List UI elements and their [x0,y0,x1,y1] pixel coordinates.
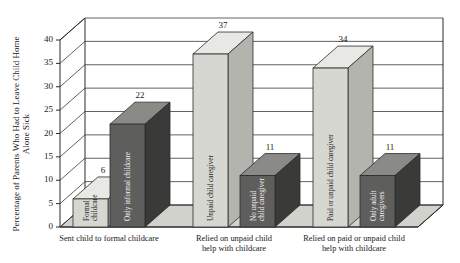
svg-text:caregivers: caregivers [378,191,386,221]
svg-text:Paid or unpaid child caregiver: Paid or unpaid child caregiver [327,134,335,221]
bar-value-label: 11 [266,142,275,152]
y-axis-ticks: 0510152025303540 [44,34,60,231]
svg-text:Alone Sick: Alone Sick [21,113,31,154]
x-category-label: Sent child to formal childcare [59,234,159,243]
svg-text:Unpaid child caregiver: Unpaid child caregiver [207,155,215,221]
bar-inner-label: Paid or unpaid child caregiver [327,134,335,221]
y-tick-label: 0 [49,221,54,231]
x-axis-category-labels: Sent child to formal childcareRelied on … [59,234,405,253]
x-category-label: Relied on paid or unpaid child [303,234,405,243]
bar-inner-label: Only adultcaregivers [370,190,386,221]
bar-3d [110,102,170,227]
y-tick-label: 10 [44,174,54,184]
y-tick-label: 40 [44,34,54,44]
y-tick-label: 35 [44,57,54,67]
y-tick-label: 20 [44,128,54,138]
svg-text:No unpaid: No unpaid [250,190,258,221]
y-tick-label: 15 [44,151,54,161]
y-tick-label: 25 [44,104,54,114]
x-category-label: Relied on unpaid child [196,234,273,243]
svg-text:child caregiver: child caregiver [258,177,266,221]
svg-text:Only informal childcare: Only informal childcare [124,152,132,221]
svg-text:Percentage of Parents Who Had: Percentage of Parents Who Had to Leave C… [11,37,21,232]
bar-chart: 0510152025303540 62237113411 Formalchild… [0,0,460,263]
y-axis-title: Percentage of Parents Who Had to Leave C… [11,37,31,232]
x-category-label: help with childcare [202,244,266,253]
bar-inner-label: Unpaid child caregiver [207,155,215,221]
y-axis-title-group: Percentage of Parents Who Had to Leave C… [11,37,31,232]
svg-text:Only adult: Only adult [370,190,378,221]
bar-value-label: 34 [339,34,349,44]
chart-canvas: 0510152025303540 62237113411 Formalchild… [0,0,460,263]
y-tick-label: 30 [44,81,54,91]
bar-value-label: 11 [386,142,395,152]
y-tick-label: 5 [49,198,54,208]
svg-text:childcare: childcare [91,195,99,221]
bar-value-label: 37 [219,20,229,30]
x-category-label: help with childcare [322,244,386,253]
bar-value-label: 22 [136,90,145,100]
bar-inner-label: Only informal childcare [124,152,132,221]
bar-value-label: 6 [101,165,106,175]
svg-text:Formal: Formal [83,200,91,221]
